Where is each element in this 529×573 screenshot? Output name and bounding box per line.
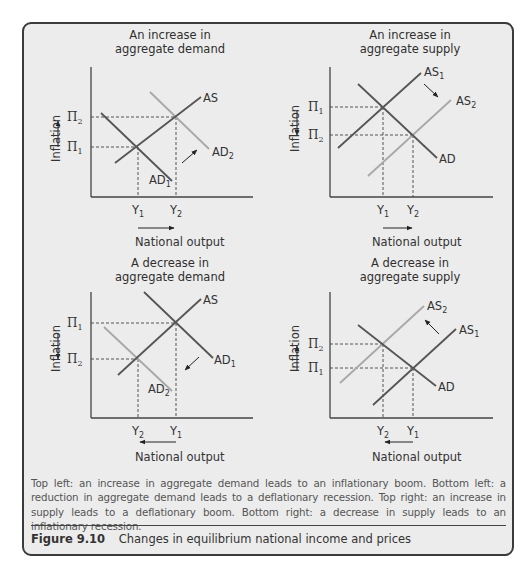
y-left-label: Y1 xyxy=(132,204,144,221)
ad-label: AD xyxy=(439,153,456,165)
pi-top-label: Π1 xyxy=(67,317,83,334)
pi-top-label: Π2 xyxy=(308,338,324,355)
shift-arrow xyxy=(425,320,439,334)
as-label: AS xyxy=(203,294,218,306)
as2-label: AS2 xyxy=(456,95,476,112)
y-axis-label: Inflation xyxy=(49,115,63,162)
shift-arrow xyxy=(182,150,197,163)
y-right-label: Y2 xyxy=(407,204,419,221)
y-right-label: Y2 xyxy=(170,204,182,221)
chart-bottom-right xyxy=(297,292,493,442)
pi-bottom-label: Π1 xyxy=(67,141,83,158)
shift-arrow xyxy=(185,357,199,370)
as2-label: AS2 xyxy=(427,300,447,317)
chart-top-right xyxy=(297,67,493,228)
as1-label: AS1 xyxy=(424,66,444,83)
pi-bottom-label: Π2 xyxy=(308,129,324,146)
as1-label: AS1 xyxy=(459,324,479,341)
y-right-label: Y1 xyxy=(407,425,419,442)
ad1-label: AD1 xyxy=(149,174,171,191)
figure-title: Changes in equilibrium national income a… xyxy=(119,532,411,546)
figure-number: Figure 9.10 xyxy=(31,532,105,546)
y-axis-label: Inflation xyxy=(288,105,302,152)
x-axis-label: National output xyxy=(372,450,462,464)
ad1-label: AD1 xyxy=(214,354,236,371)
ad2-label: AD2 xyxy=(212,146,234,163)
shift-arrow xyxy=(424,84,438,97)
ad2-label: AD2 xyxy=(148,383,170,400)
ad-label: AD xyxy=(438,381,455,393)
guide-lines xyxy=(330,107,413,197)
caption-divider xyxy=(31,525,506,526)
figure-title-line: Figure 9.10 Changes in equilibrium natio… xyxy=(31,532,411,546)
y-left-label: Y2 xyxy=(377,425,389,442)
x-axis-label: National output xyxy=(135,450,225,464)
guide-lines xyxy=(91,323,176,418)
y-left-label: Y1 xyxy=(377,204,389,221)
x-axis-label: National output xyxy=(372,235,462,249)
ad2-curve xyxy=(150,92,209,149)
as-curve xyxy=(118,299,201,375)
y-axis-label: Inflation xyxy=(288,325,302,372)
y-axis-label: Inflation xyxy=(49,325,63,372)
y-right-label: Y1 xyxy=(170,425,182,442)
x-axis-label: National output xyxy=(135,235,225,249)
as1-curve xyxy=(338,73,421,148)
pi-bottom-label: Π2 xyxy=(67,353,83,370)
pi-top-label: Π1 xyxy=(308,101,324,118)
as-label: AS xyxy=(203,92,218,104)
pi-bottom-label: Π1 xyxy=(308,362,324,379)
pi-top-label: Π2 xyxy=(67,111,83,128)
y-left-label: Y2 xyxy=(132,425,144,442)
